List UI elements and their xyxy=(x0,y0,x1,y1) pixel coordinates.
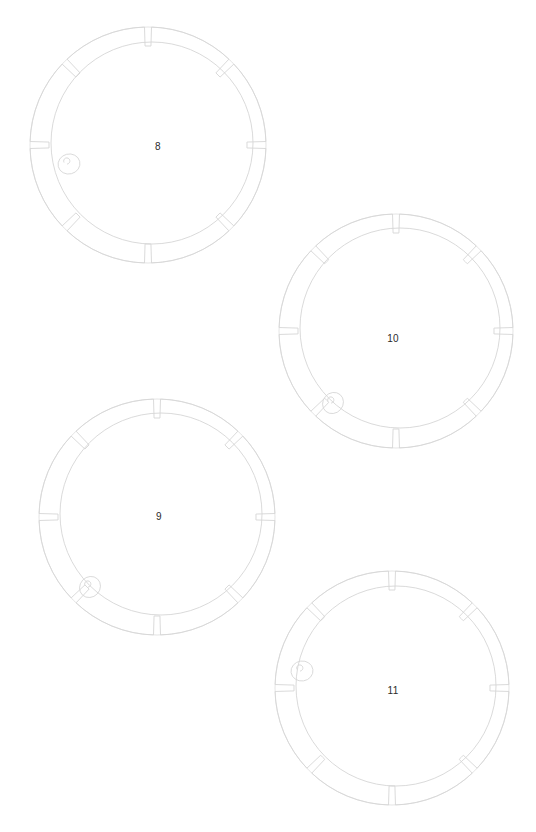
rim-tab-ellipse xyxy=(318,388,348,418)
ring-part-8 xyxy=(30,27,266,263)
drawing-sheet: 891011 xyxy=(0,0,536,832)
outer-circle xyxy=(30,27,266,263)
part-number-label: 10 xyxy=(387,334,399,344)
part-number-label: 9 xyxy=(156,512,162,522)
rim-tab-hook xyxy=(64,158,70,164)
rim-tab-ellipse xyxy=(75,572,105,602)
outer-contour xyxy=(30,27,266,263)
rim-tab-ellipse xyxy=(290,660,315,683)
outer-circle xyxy=(279,214,513,448)
outer-contour xyxy=(279,214,513,448)
inner-circle xyxy=(300,228,500,428)
rim-tab-ellipse xyxy=(56,152,82,177)
ring-part-10 xyxy=(279,214,513,448)
inner-circle xyxy=(51,42,253,244)
part-number-label: 11 xyxy=(388,686,399,696)
part-number-label: 8 xyxy=(155,142,161,152)
line-drawing-canvas xyxy=(0,0,536,832)
